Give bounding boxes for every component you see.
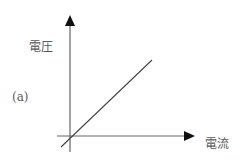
x-axis-arrow-icon [184,131,195,141]
y-axis-arrow-icon [65,15,75,26]
y-axis-label: 電圧 [29,37,53,54]
x-axis-label: 電流 [205,134,229,151]
panel-label: (a) [12,90,29,104]
proportional-line [61,60,152,147]
